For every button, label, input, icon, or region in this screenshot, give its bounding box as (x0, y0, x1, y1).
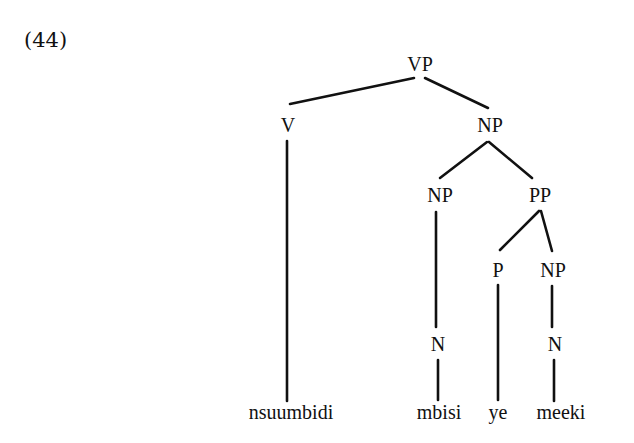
word-meeki: meeki (537, 402, 586, 422)
word-ye: ye (489, 402, 508, 422)
branch-pp-p (500, 211, 539, 250)
tree-branches (0, 0, 634, 443)
branch-np-np (440, 142, 487, 178)
node-pp: PP (529, 185, 551, 205)
word-nsuumbidi: nsuumbidi (249, 402, 333, 422)
node-n2: N (548, 334, 562, 354)
node-vp: VP (407, 54, 433, 74)
node-np-object: NP (477, 115, 503, 135)
word-mbisi: mbisi (417, 402, 461, 422)
node-np-head: NP (427, 185, 453, 205)
branch-pp-np (541, 211, 552, 251)
branch-vp-v (290, 78, 414, 104)
node-np-pp: NP (540, 260, 566, 280)
branch-vp-np (425, 78, 488, 108)
node-p: P (492, 260, 503, 280)
node-v: V (281, 115, 295, 135)
node-n1: N (431, 334, 445, 354)
branch-np-pp (489, 142, 532, 178)
